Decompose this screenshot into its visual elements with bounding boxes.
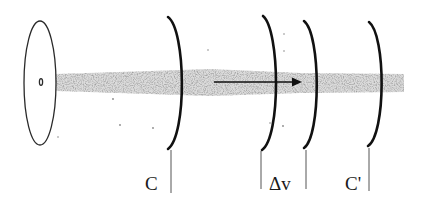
label-c-prime: C' — [345, 173, 361, 194]
label-c: C — [145, 173, 158, 194]
label-delta-v: Δv — [269, 173, 291, 194]
source-aperture-mark — [39, 79, 42, 86]
beam-diagram: C Δv C' — [0, 0, 428, 203]
